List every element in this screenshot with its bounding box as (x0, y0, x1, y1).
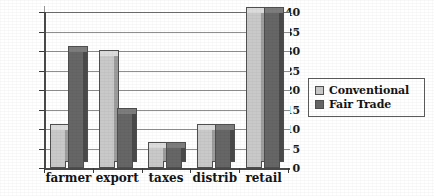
bar (99, 55, 115, 168)
legend-label-conventional: Conventional (329, 84, 409, 97)
bar-side-face (230, 125, 235, 162)
bar-front-face (198, 130, 212, 167)
bar (166, 147, 182, 168)
x-tick-mark (44, 168, 45, 173)
bar (264, 12, 280, 168)
bar-front-face (149, 148, 163, 167)
bar-front-face (265, 13, 279, 167)
x-axis-label: export (96, 172, 139, 185)
bar-side-face (83, 47, 88, 162)
bar (117, 113, 133, 168)
x-axis-label: farmer (45, 172, 91, 185)
chart-legend: Conventional Fair Trade (308, 78, 425, 117)
plot-wrapper: 0510152025303540 farmerexporttaxesdistri… (0, 0, 300, 196)
bar (68, 51, 84, 168)
bar (148, 147, 164, 168)
legend-item-conventional: Conventional (315, 83, 418, 97)
x-tick-mark (190, 168, 191, 173)
x-tick-mark (93, 168, 94, 173)
bar-front-face (247, 13, 261, 167)
bar (50, 129, 66, 168)
bar (215, 129, 231, 168)
bar-front-face (69, 52, 83, 167)
x-axis-label: distrib (193, 172, 238, 185)
bar-front-face (51, 130, 65, 167)
x-tick-mark (239, 168, 240, 173)
x-tick-mark (142, 168, 143, 173)
bar-front-face (216, 130, 230, 167)
x-tick-mark (288, 168, 289, 173)
legend-label-fair-trade: Fair Trade (329, 98, 391, 111)
bar-front-face (100, 56, 114, 167)
bar-side-face (132, 109, 137, 162)
legend-swatch-fair-trade (315, 100, 324, 109)
legend-swatch-conventional (315, 86, 324, 95)
bar (197, 129, 213, 168)
x-axis-label: retail (245, 172, 281, 185)
bar-front-face (167, 148, 181, 167)
bar-side-face (279, 8, 284, 162)
bar (246, 12, 262, 168)
x-axis-label: taxes (149, 172, 184, 185)
plot-area (44, 12, 290, 170)
legend-item-fair-trade: Fair Trade (315, 97, 418, 111)
bar-front-face (118, 114, 132, 167)
bar-chart-figure: 0510152025303540 farmerexporttaxesdistri… (0, 0, 434, 196)
